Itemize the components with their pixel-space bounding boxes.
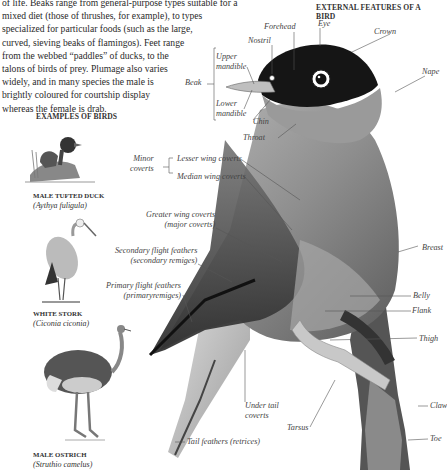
- label-beak: Beak: [185, 78, 201, 88]
- beak: [226, 81, 275, 92]
- label-upper-mandible: Upper mandible: [216, 52, 246, 72]
- label-belly: Belly: [413, 291, 430, 301]
- label-under-tail-coverts: Under tail coverts: [245, 401, 279, 421]
- label-crown: Crown: [374, 27, 396, 37]
- duck-illustration: [25, 137, 95, 182]
- label-tarsus: Tarsus: [287, 423, 309, 433]
- label-chin: Chin: [253, 117, 269, 127]
- label-secondary-flight-feathers: Secondary flight feathers (secondary rem…: [115, 246, 197, 266]
- label-eye: Eye: [318, 19, 330, 29]
- example-caption-ostrich: MALE OSTRICH (Struthio camelus): [33, 450, 92, 469]
- label-nostril: Nostril: [248, 36, 271, 46]
- label-breast: Breast: [422, 243, 443, 253]
- example-species: (Struthio camelus): [33, 460, 92, 470]
- label-tail-feathers: Tail feathers (retrices): [187, 437, 260, 447]
- example-name: MALE TUFTED DUCK: [33, 191, 104, 201]
- example-species: (Aythya fuligula): [33, 201, 104, 211]
- label-lower-mandible: Lower mandible: [216, 99, 246, 119]
- example-caption-duck: MALE TUFTED DUCK (Aythya fuligula): [33, 191, 104, 210]
- label-claw: Claw: [430, 401, 447, 411]
- example-name: WHITE STORK: [33, 309, 89, 319]
- label-toe: Toe: [430, 434, 442, 444]
- label-median-wing-coverts: Median wing coverts: [177, 172, 246, 182]
- ostrich-illustration: [44, 325, 131, 440]
- label-flank: Flank: [412, 306, 431, 316]
- label-nape: Nape: [422, 67, 439, 77]
- label-minor-coverts: Minor coverts: [130, 154, 154, 174]
- label-thigh: Thigh: [419, 334, 438, 344]
- example-caption-stork: WHITE STORK (Ciconia ciconia): [33, 309, 89, 328]
- label-primary-flight-feathers: Primary flight feathers (primaryremiges): [106, 281, 181, 301]
- stork-illustration: [40, 219, 96, 302]
- label-greater-wing-coverts: Greater wing coverts (major coverts): [146, 210, 215, 230]
- label-lesser-wing-coverts: Lesser wing coverts: [177, 154, 242, 164]
- label-forehead: Forehead: [264, 22, 296, 32]
- label-throat: Throat: [243, 133, 265, 143]
- example-name: MALE OSTRICH: [33, 450, 92, 460]
- example-species: (Ciconia ciconia): [33, 319, 89, 329]
